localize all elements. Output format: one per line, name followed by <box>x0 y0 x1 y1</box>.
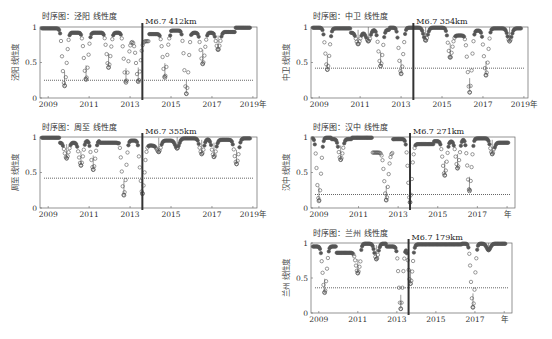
data-point <box>396 257 399 260</box>
data-point <box>61 144 64 147</box>
data-point <box>119 156 122 159</box>
data-point <box>138 166 141 169</box>
data-point <box>467 246 470 249</box>
data-point <box>103 37 106 40</box>
data-point <box>446 41 449 44</box>
data-point <box>426 33 429 36</box>
data-point <box>136 144 139 147</box>
data-point <box>127 144 130 147</box>
x-tick-label: 2013 <box>121 100 140 109</box>
data-point <box>380 154 383 157</box>
plot-frame <box>311 27 528 98</box>
data-point <box>341 152 344 155</box>
data-point <box>321 145 324 148</box>
data-point <box>158 34 161 37</box>
y-axis-label: 兰州 线性度 <box>281 258 291 296</box>
data-point <box>326 256 329 259</box>
data-point <box>328 54 331 57</box>
data-point <box>182 52 185 55</box>
data-point <box>469 280 472 283</box>
x-tick-label: 2019年 <box>511 99 538 109</box>
data-point <box>188 40 191 43</box>
data-point <box>406 164 409 167</box>
data-point <box>319 251 322 254</box>
x-tick-label: 2015 <box>161 210 180 219</box>
data-point <box>197 142 200 145</box>
data-point <box>464 144 467 147</box>
data-point <box>486 61 489 64</box>
x-tick-label: 2011 <box>349 210 368 219</box>
data-point <box>519 27 522 30</box>
data-point <box>117 141 120 144</box>
data-point <box>110 45 113 48</box>
data-point <box>197 35 200 38</box>
panel-hanzhong: 时序图：汉中 线性度汉中 线性度00.512009201120132015201… <box>281 122 515 219</box>
data-point <box>67 38 70 41</box>
data-point <box>402 52 405 55</box>
data-point <box>402 269 405 272</box>
x-tick-label: 2017 <box>465 315 484 324</box>
data-point <box>318 247 321 250</box>
data-point <box>143 171 146 174</box>
data-point <box>94 157 97 160</box>
data-point <box>471 52 474 55</box>
data-point <box>403 40 406 43</box>
data-point <box>133 51 136 54</box>
x-tick-label: 2009 <box>309 210 328 219</box>
data-point <box>376 40 379 43</box>
earthquake-annotation: M6.7 179km <box>412 233 464 242</box>
data-point <box>488 37 491 40</box>
data-point <box>373 251 376 254</box>
data-point <box>181 39 184 42</box>
x-tick-label: 2015 <box>432 100 451 109</box>
data-point <box>465 55 468 58</box>
data-point <box>160 45 163 48</box>
data-point <box>248 137 251 140</box>
data-point <box>90 158 93 161</box>
data-point <box>205 38 208 41</box>
data-point <box>453 147 456 150</box>
data-point <box>198 146 201 149</box>
data-point <box>204 45 207 48</box>
data-point <box>405 151 408 154</box>
data-point <box>382 167 385 170</box>
data-point <box>215 145 218 148</box>
x-tick-label: 2013 <box>392 100 411 109</box>
data-point <box>167 43 170 46</box>
data-point <box>468 264 471 267</box>
data-point <box>504 242 507 245</box>
data-point <box>394 246 397 249</box>
data-point <box>445 34 448 37</box>
y-tick-label: 1 <box>303 239 308 248</box>
panel-zhongwei: 时序图：中卫 线性度中卫 线性度00.512009201120132015201… <box>281 11 538 109</box>
data-point <box>375 34 378 37</box>
data-point <box>233 30 236 33</box>
data-point <box>411 270 414 273</box>
data-point <box>314 152 317 155</box>
data-point <box>441 155 444 158</box>
data-point <box>471 153 474 156</box>
panel-title: 时序图：中卫 线性度 <box>313 11 388 21</box>
data-point <box>411 161 414 164</box>
data-point <box>479 31 482 34</box>
data-point <box>396 36 399 39</box>
data-point <box>66 47 69 50</box>
data-point <box>61 69 64 72</box>
data-point <box>337 150 340 153</box>
y-tick-label: 0.5 <box>25 58 37 67</box>
data-point <box>67 151 70 154</box>
data-point <box>457 158 460 161</box>
data-point <box>464 44 467 47</box>
data-point <box>213 35 216 38</box>
data-point <box>510 35 513 38</box>
data-point <box>377 249 380 252</box>
data-point <box>321 271 324 274</box>
data-point <box>208 140 211 143</box>
y-tick-label: 0.5 <box>25 168 37 177</box>
x-tick-label: 2017 <box>468 210 487 219</box>
data-point <box>111 38 114 41</box>
y-axis-label: 中卫 线性度 <box>281 43 291 81</box>
data-point <box>180 33 183 36</box>
y-tick-label: 1 <box>303 133 308 142</box>
data-point <box>82 148 85 151</box>
